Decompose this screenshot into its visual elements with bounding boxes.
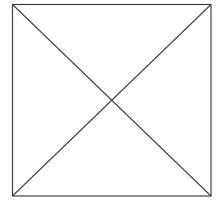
image-placeholder-canvas: image-placeholder bbox=[0, 0, 216, 200]
image-placeholder-icon bbox=[0, 0, 216, 200]
